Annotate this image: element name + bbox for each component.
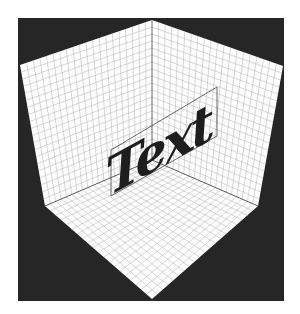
room-corner-illustration: Text — [0, 0, 300, 314]
